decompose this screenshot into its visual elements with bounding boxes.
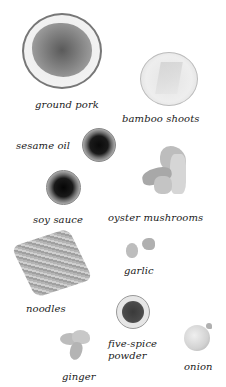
bamboo-shoots-image <box>140 52 198 106</box>
soy-sauce-label: soy sauce <box>33 214 83 225</box>
ground-pork-label: ground pork <box>35 99 99 110</box>
onion-label: onion <box>184 361 213 372</box>
oyster-mushrooms-image <box>142 146 194 198</box>
sesame-oil-label: sesame oil <box>16 140 70 151</box>
bamboo-shoots-label: bamboo shoots <box>122 113 200 124</box>
five-spice-powder-image <box>116 295 150 329</box>
soy-sauce-image <box>46 170 81 205</box>
garlic-label: garlic <box>124 265 154 276</box>
ground-pork-image <box>22 13 102 89</box>
oyster-mushrooms-label: oyster mushrooms <box>108 212 203 223</box>
noodles-image <box>18 231 86 297</box>
onion-image <box>184 323 214 353</box>
sesame-oil-image <box>82 128 116 162</box>
five-spice-powder-label-line1: five-spice <box>108 338 157 349</box>
five-spice-powder-label-line2: powder <box>108 350 147 361</box>
ginger-image <box>60 330 92 362</box>
noodles-label: noodles <box>26 303 66 314</box>
garlic-image <box>126 238 158 260</box>
ginger-label: ginger <box>62 371 96 382</box>
